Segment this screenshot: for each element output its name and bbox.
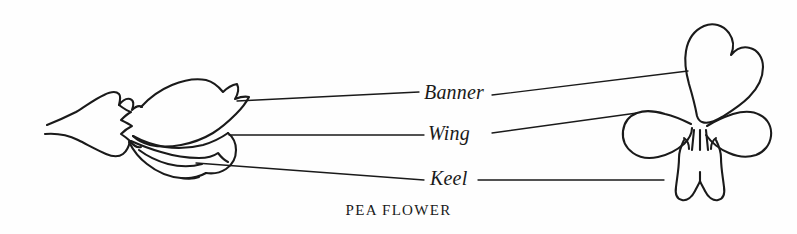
leader-line-keel-left [196, 163, 424, 180]
leader-line-banner-left [237, 92, 419, 101]
leader-line-wing-right [492, 113, 637, 133]
front-view-stamen-column-3 [706, 130, 708, 150]
front-view-wing-petal-right [706, 112, 771, 157]
label-banner: Banner [424, 81, 484, 104]
pea-flower-side-view [45, 79, 249, 178]
pea-flower-figure: Banner Wing Keel PEA FLOWER [0, 0, 797, 234]
label-keel: Keel [430, 167, 467, 190]
side-view-calyx-upper [47, 92, 142, 125]
pea-flower-front-view [623, 24, 771, 200]
side-view-wing-outline [206, 133, 236, 173]
front-view-wing-petal-left [623, 111, 692, 158]
label-wing: Wing [428, 122, 470, 145]
pea-flower-diagram [0, 0, 797, 234]
leader-line-banner-right [492, 71, 688, 95]
figure-caption: PEA FLOWER [0, 202, 797, 219]
front-view-banner-petal [685, 24, 763, 123]
side-view-calyx-notch [119, 105, 132, 141]
